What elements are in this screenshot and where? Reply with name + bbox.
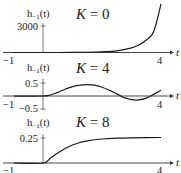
y-tick-label: 0.25 — [20, 133, 38, 144]
x-tick-label-left: −1 — [3, 55, 14, 66]
x-tick-label-right: 4 — [157, 99, 163, 110]
y-axis-label: h−1(t) — [27, 117, 50, 130]
x-axis-label: t — [176, 156, 180, 168]
x-tick-label-left: −1 — [3, 165, 14, 173]
x-axis-label: t — [176, 46, 180, 58]
y-tick-label: 3000 — [17, 21, 38, 32]
x-tick-label-right: 4 — [157, 55, 163, 66]
y-tick-label: −0.5 — [19, 103, 38, 114]
y-tick-label: 0.5 — [25, 78, 38, 89]
panel-title: K = 0 — [75, 6, 109, 22]
panel-k4: K = 4 h−1(t) 0.5 −0.5 t −1 4 — [3, 60, 180, 114]
x-axis-arrow-icon — [170, 94, 174, 98]
y-axis-label: h−1(t) — [27, 8, 50, 21]
x-tick-label-left: −1 — [3, 99, 14, 110]
panel-title: K = 4 — [75, 60, 110, 76]
x-tick-label-right: 4 — [157, 165, 163, 173]
x-axis-label: t — [176, 89, 180, 101]
panel-k0: K = 0 h−1(t) 3000 t −1 4 — [3, 4, 180, 66]
x-axis-arrow-icon — [170, 51, 174, 55]
panel-title: K = 8 — [75, 114, 109, 130]
panel-k8: K = 8 h−1(t) 0.25 t −1 4 — [3, 114, 180, 173]
figure: K = 0 h−1(t) 3000 t −1 4 K = 4 h−1(t) 0.… — [0, 0, 181, 173]
y-axis-label: h−1(t) — [27, 62, 50, 75]
x-axis-arrow-icon — [170, 161, 174, 165]
